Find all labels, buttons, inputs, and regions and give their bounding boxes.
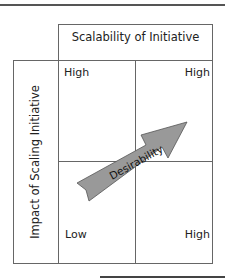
bottom-rule xyxy=(100,276,225,278)
desirability-arrow: Desirability xyxy=(0,0,225,278)
